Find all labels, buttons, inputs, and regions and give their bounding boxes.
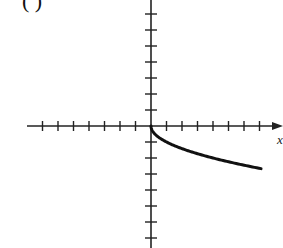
function-plot xyxy=(0,0,283,248)
x-axis-arrow-icon xyxy=(272,122,283,130)
x-axis-label: x xyxy=(277,132,283,148)
axes xyxy=(27,0,283,248)
curve-line xyxy=(151,126,261,169)
